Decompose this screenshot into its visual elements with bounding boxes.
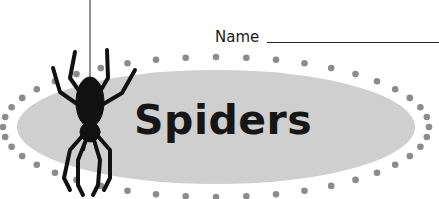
name-field-row: Name — [215, 28, 439, 46]
name-label: Name — [215, 28, 259, 46]
worksheet-title: Spiders — [134, 95, 312, 145]
name-input-line[interactable] — [267, 42, 439, 43]
